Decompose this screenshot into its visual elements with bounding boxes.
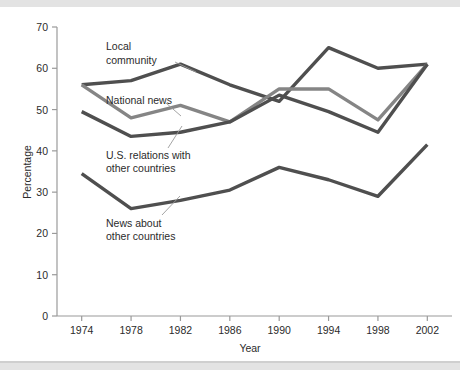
y-tick-label-70: 70 [36,21,48,33]
top-decorative-band [0,0,460,7]
leader-line-news-about-other [162,196,180,215]
y-tick-label-30: 30 [36,186,48,198]
y-tick-label-50: 50 [36,104,48,116]
y-axis-title: Percentage [21,145,33,199]
x-tick-label-1986: 1986 [218,324,242,336]
x-axis-tick-labels: 19741978198219861990199419982002 [70,324,439,336]
annotation-news-about-other-line2: other countries [106,230,175,242]
annotation-national-news-line1: National news [106,94,172,106]
x-tick-label-1978: 1978 [119,324,143,336]
bottom-divider-line [0,361,460,363]
chart-figure: 010203040506070 197419781982198619901994… [0,0,460,370]
x-tick-label-1974: 1974 [70,324,94,336]
bottom-decorative-band [0,363,460,370]
annotation-local-community-line1: Local [106,40,131,52]
x-tick-label-2002: 2002 [416,324,440,336]
x-axis-title: Year [239,342,261,354]
series-lines-group [82,48,428,209]
annotation-us-relations-line2: other countries [106,162,175,174]
line-chart-plot: 010203040506070 197419781982198619901994… [0,0,460,370]
leader-line-us-relations [168,126,182,148]
annotation-us-relations-line1: U.S. relations with [106,149,191,161]
y-tick-label-20: 20 [36,227,48,239]
x-tick-label-1982: 1982 [169,324,193,336]
annotation-local-community-line2: community [106,54,158,66]
x-tick-label-1998: 1998 [366,324,390,336]
annotation-news-about-other-line1: News about [106,217,162,229]
leader-line-local-community [175,62,196,72]
y-tick-label-60: 60 [36,62,48,74]
y-tick-label-40: 40 [36,145,48,157]
annotation-leader-lines [162,62,196,215]
y-axis-ticks [52,27,57,316]
y-tick-label-0: 0 [42,310,48,322]
y-axis-tick-labels: 010203040506070 [36,21,48,322]
x-axis-ticks [82,316,428,321]
y-tick-label-10: 10 [36,269,48,281]
x-tick-label-1994: 1994 [317,324,341,336]
x-tick-label-1990: 1990 [268,324,292,336]
